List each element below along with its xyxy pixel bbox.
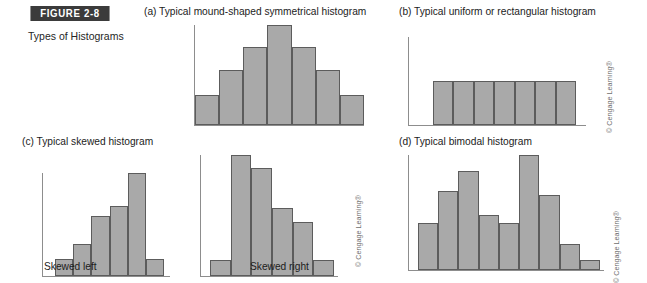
histogram-bar <box>438 191 458 270</box>
histogram-bar <box>210 260 231 276</box>
histogram-uniform <box>408 37 586 126</box>
histogram-bar <box>539 195 559 270</box>
histogram-bar <box>535 81 555 125</box>
histogram-bar <box>231 155 252 276</box>
panel-skewed: (c) Typical skewed histogram Skewed left… <box>22 136 382 279</box>
figure-number-banner: FIGURE 2-8 <box>30 6 109 21</box>
histogram-bar <box>219 70 243 125</box>
copyright-notice-d: © Cengage Learning® <box>612 211 621 283</box>
y-axis-line <box>408 155 409 271</box>
histogram-bar <box>128 173 146 276</box>
skewed-right-label: Skewed right <box>250 261 309 272</box>
histogram-bar <box>267 25 291 125</box>
panel-bimodal: (d) Typical bimodal histogram © Cengage … <box>399 136 647 279</box>
histogram-bar <box>243 47 267 125</box>
panel-d-title: (d) Typical bimodal histogram <box>399 136 532 147</box>
histogram-bar <box>519 155 539 270</box>
panel-b-title: (b) Typical uniform or rectangular histo… <box>399 6 596 17</box>
histogram-bar <box>292 47 316 125</box>
histogram-bar <box>494 81 514 125</box>
histogram-mound-shaped <box>194 25 364 126</box>
histogram-bar <box>556 81 576 125</box>
copyright-notice-c: © Cengage Learning® <box>354 195 363 267</box>
panel-c-title: (c) Typical skewed histogram <box>22 136 153 147</box>
histogram-bar <box>479 215 499 270</box>
histogram-bar <box>433 81 453 125</box>
x-axis-line <box>408 125 586 126</box>
histogram-bar <box>251 168 272 276</box>
bar-group <box>210 155 334 276</box>
histogram-bimodal <box>408 155 604 271</box>
histogram-skewed-right <box>200 155 338 277</box>
histogram-bar <box>453 81 473 125</box>
x-axis-line <box>408 270 604 271</box>
x-axis-line <box>194 125 364 126</box>
histogram-bar <box>340 95 364 125</box>
y-axis-line <box>200 155 201 277</box>
histogram-bar <box>110 206 128 276</box>
bar-group <box>418 155 600 270</box>
histogram-bar <box>560 244 580 270</box>
bar-group <box>195 25 364 125</box>
panel-uniform-rectangular: (b) Typical uniform or rectangular histo… <box>399 6 647 126</box>
histogram-bar <box>195 95 219 125</box>
y-axis-line <box>42 173 43 277</box>
histogram-bar <box>146 259 164 277</box>
histogram-bar <box>499 223 519 270</box>
histogram-bar <box>474 81 494 125</box>
x-axis-line <box>42 276 170 277</box>
panel-mound-shaped-symmetrical: (a) Typical mound-shaped symmetrical his… <box>144 6 394 126</box>
histogram-bar <box>316 70 340 125</box>
y-axis-line <box>408 37 409 126</box>
panel-a-title: (a) Typical mound-shaped symmetrical his… <box>144 6 366 17</box>
histogram-bar <box>580 260 600 270</box>
histogram-bar <box>313 260 334 276</box>
histogram-bar <box>418 223 438 270</box>
histogram-bar <box>458 171 478 270</box>
copyright-notice-b: © Cengage Learning® <box>605 61 614 133</box>
x-axis-line <box>200 276 338 277</box>
histogram-bar <box>515 81 535 125</box>
skewed-left-label: Skewed left <box>44 261 97 272</box>
bar-group <box>433 37 576 125</box>
